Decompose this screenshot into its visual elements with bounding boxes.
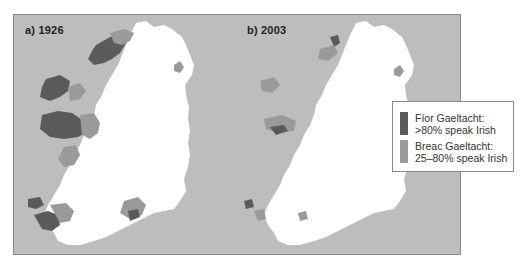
legend-breac-title: Breac Gaeltacht: [415,140,507,152]
legend-breac-desc: 25–80% speak Irish [415,152,507,164]
region-kerry-breac-2003 [254,209,266,221]
region-kerry-fior-2003 [244,199,254,209]
legend-swatch-breac [400,140,408,163]
map-2003 [244,21,414,245]
legend: Fíor Gaeltacht: >80% speak Irish Breac G… [392,101,514,172]
legend-item-fior: Fíor Gaeltacht: >80% speak Irish [400,112,496,136]
region-mayo-breac-2003 [260,77,280,93]
legend-swatch-fior [400,112,408,135]
region-mayo-breac [68,83,86,101]
region-mayo-fior [40,75,70,101]
legend-fior-title: Fíor Gaeltacht: [415,112,496,124]
region-donegal-fior-2003 [330,35,340,47]
panel-label-2003: b) 2003 [247,24,286,36]
legend-fior-desc: >80% speak Irish [415,124,496,136]
map-1926 [28,21,194,245]
region-donegal-breac-2003 [318,45,338,61]
region-kerry2-fior [28,197,44,209]
panel-label-1926: a) 1926 [25,24,64,36]
legend-item-breac: Breac Gaeltacht: 25–80% speak Irish [400,140,507,164]
